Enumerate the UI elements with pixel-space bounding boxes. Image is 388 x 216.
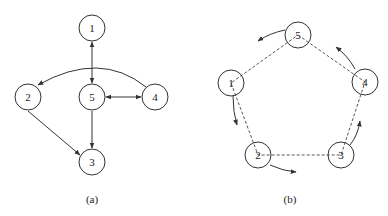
dashed-cycle [231, 35, 365, 155]
node-b-1: 1 [218, 70, 244, 96]
svg-text:2: 2 [25, 91, 31, 103]
svg-text:2: 2 [255, 149, 261, 161]
figure-b: 5 1 4 2 3 (b) [218, 22, 378, 206]
rotation-arrow-4 [336, 47, 355, 69]
svg-text:5: 5 [295, 29, 301, 41]
node-a-1: 1 [79, 15, 105, 41]
svg-text:1: 1 [228, 77, 234, 89]
svg-text:3: 3 [338, 149, 344, 161]
node-b-5: 5 [285, 22, 311, 48]
diagram-canvas: 1 2 3 4 5 (a) 5 1 4 [0, 0, 388, 216]
node-b-4: 4 [352, 69, 378, 95]
node-a-3: 3 [79, 149, 105, 175]
figure-a: 1 2 3 4 5 (a) [15, 15, 168, 206]
svg-text:4: 4 [152, 91, 158, 103]
node-a-5: 5 [79, 84, 105, 110]
edge-2-3 [28, 111, 80, 155]
svg-text:1: 1 [89, 22, 95, 34]
caption-a: (a) [86, 193, 99, 206]
svg-text:3: 3 [89, 156, 95, 168]
rotation-arrow-1 [233, 96, 237, 125]
rotation-arrow-2 [270, 165, 296, 172]
svg-text:5: 5 [89, 91, 95, 103]
caption-b: (b) [284, 193, 297, 206]
node-a-2: 2 [15, 84, 41, 110]
node-a-4: 4 [142, 84, 168, 110]
svg-text:4: 4 [362, 76, 368, 88]
rotation-arrow-5 [258, 30, 285, 41]
rotation-arrow-3 [350, 121, 360, 145]
